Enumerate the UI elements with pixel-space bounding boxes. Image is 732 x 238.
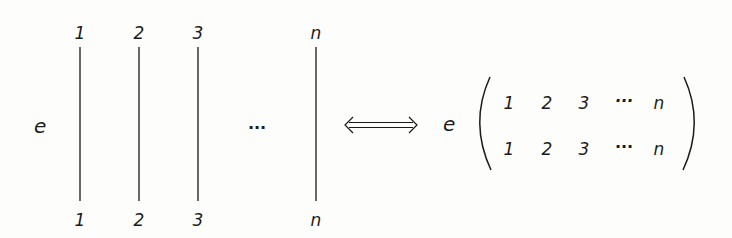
strand-3: 3 3 — [193, 23, 204, 230]
matrix-entry: 3 — [579, 139, 590, 159]
strand-bottom-label: n — [311, 210, 322, 230]
strand-n: n n — [311, 23, 322, 230]
strand-top-label: 3 — [193, 23, 204, 43]
left-parenthesis — [480, 77, 491, 170]
identity-label-left: e — [34, 114, 46, 138]
matrix-entry: n — [654, 93, 665, 113]
matrix-entry: n — [654, 139, 665, 159]
matrix-entry: 1 — [504, 139, 515, 159]
matrix-ellipsis: ··· — [615, 91, 633, 110]
double-arrow-icon — [345, 117, 417, 133]
matrix-entry: 2 — [542, 139, 553, 159]
strand-top-label: 2 — [134, 23, 145, 43]
strand-1: 1 1 — [75, 23, 86, 230]
right-parenthesis — [683, 77, 694, 170]
strand-top-label: 1 — [75, 23, 86, 43]
strand-2: 2 2 — [134, 23, 145, 230]
braid-permutation-diagram: e 1 1 2 2 3 3 ··· n n e 1 2 3 ··· n 1 — [0, 0, 732, 238]
matrix-entry: 2 — [542, 93, 553, 113]
matrix-entry: 1 — [504, 93, 515, 113]
strand-bottom-label: 2 — [134, 210, 145, 230]
ellipsis: ··· — [248, 118, 266, 137]
matrix-row-top: 1 2 3 ··· n — [504, 91, 665, 113]
identity-label-right: e — [443, 112, 455, 136]
matrix-entry: 3 — [579, 93, 590, 113]
matrix-ellipsis: ··· — [615, 137, 633, 156]
strand-top-label: n — [311, 23, 322, 43]
matrix-row-bottom: 1 2 3 ··· n — [504, 137, 665, 159]
strand-bottom-label: 1 — [75, 210, 86, 230]
strand-bottom-label: 3 — [193, 210, 204, 230]
